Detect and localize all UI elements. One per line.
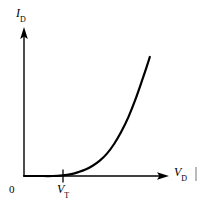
diode-iv-characteristic-figure: ID VD VT 0 [0,0,205,205]
y-axis [20,27,28,176]
x-axis-label-subscript: D [181,174,187,183]
origin-label: 0 [9,184,15,195]
x-axis-label: VD [174,166,187,181]
y-axis-label: ID [16,7,26,22]
threshold-voltage-subscript: T [64,191,69,200]
y-axis-label-subscript: D [20,15,26,24]
diode-characteristic-curve [24,57,150,176]
threshold-voltage-label: VT [57,183,69,198]
